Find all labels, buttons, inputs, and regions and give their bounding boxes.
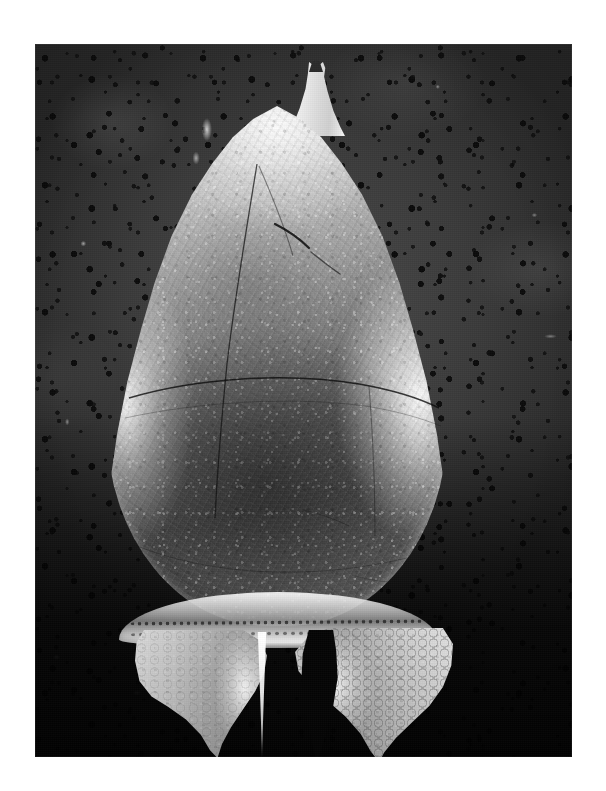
sem-micrograph-print — [35, 44, 572, 757]
page-canvas — [0, 0, 606, 791]
film-grain — [35, 44, 572, 757]
